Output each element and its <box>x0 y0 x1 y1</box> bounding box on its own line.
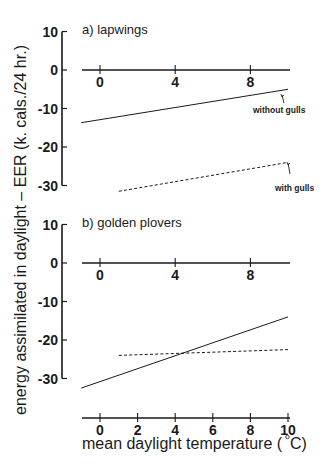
x-axis-title-main: mean daylight temperature ( <box>82 435 283 452</box>
y-tick-label: -10 <box>38 294 58 310</box>
zero-axis-tick-label: 8 <box>247 74 255 90</box>
y-tick-label: 0 <box>50 255 58 271</box>
x-axis-title-unit: C) <box>290 435 307 452</box>
y-tick-label: -20 <box>38 139 58 155</box>
zero-axis-tick-label: 0 <box>96 74 104 90</box>
y-tick-label: -20 <box>38 332 58 348</box>
series-without-gulls <box>81 317 288 388</box>
zero-axis-tick-label: 0 <box>96 267 104 283</box>
zero-axis-tick-label: 4 <box>171 74 179 90</box>
plot-layer: 100-10-20-30048100-10-20-300480246810 <box>38 24 296 439</box>
annotation-with-gulls: with gulls <box>274 183 314 193</box>
panel-b-title: b) golden plovers <box>82 215 182 230</box>
y-tick-label: 0 <box>50 62 58 78</box>
zero-axis-tick-label: 4 <box>171 267 179 283</box>
y-tick-label: 10 <box>42 24 58 40</box>
chart: 100-10-20-30048100-10-20-300480246810 en… <box>0 0 323 467</box>
panel-b: 100-10-20-30048 <box>38 217 290 389</box>
zero-axis-tick-label: 8 <box>247 267 255 283</box>
series-with-gulls <box>119 350 288 356</box>
annotation-without-gulls: without gulls <box>252 105 306 115</box>
y-tick-label: -30 <box>38 371 58 387</box>
y-tick-label: -10 <box>38 101 58 117</box>
series-with-gulls <box>119 162 288 191</box>
y-tick-label: 10 <box>42 217 58 233</box>
y-tick-label: -30 <box>38 178 58 194</box>
x-axis-title: mean daylight temperature ( C) <box>82 435 307 452</box>
panel-a-title: a) lapwings <box>82 22 148 37</box>
y-axis-title: energy assimilated in daylight – EER (k.… <box>12 45 29 415</box>
